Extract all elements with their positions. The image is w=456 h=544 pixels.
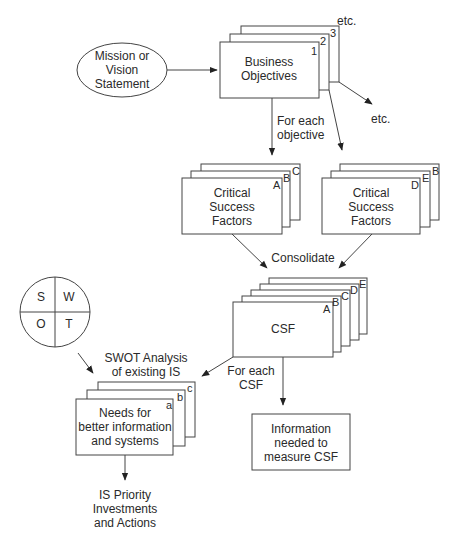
objectives-line-1: Business: [245, 55, 294, 69]
csf-right-stack: B E D Critical Success Factors: [322, 164, 439, 234]
stack-label-a: A: [323, 303, 331, 315]
arrow-csf-right-to-consolidated: [339, 234, 372, 268]
csf-consolidated-stack: E D C B A CSF: [233, 278, 367, 357]
stack-label-c: C: [341, 290, 349, 302]
for-each-objective-line-2: objective: [277, 128, 325, 142]
stack-label-e: E: [422, 172, 429, 184]
stack-label-c: C: [292, 165, 300, 177]
stack-label-a: a: [166, 399, 173, 411]
information-line-2: needed to: [274, 436, 328, 450]
arrow-objectives-to-csf-right: [329, 90, 342, 150]
information-node: Information needed to measure CSF: [252, 414, 350, 470]
swot-analysis-line-2: of existing IS: [112, 365, 181, 379]
objectives-line-2: Objectives: [241, 69, 297, 83]
csf-right-line-3: Factors: [351, 214, 391, 228]
mission-statement-node: Mission or Vision Statement: [77, 43, 167, 97]
for-each-objective-line-1: For each: [277, 114, 324, 128]
csf-consolidated-label: CSF: [271, 322, 295, 336]
stack-label-b: B: [332, 296, 339, 308]
stack-label-b: B: [283, 172, 290, 184]
arrow-etc: [339, 82, 372, 104]
for-each-csf-line-2: CSF: [239, 378, 263, 392]
swot-analysis-line-1: SWOT Analysis: [104, 351, 187, 365]
swot-circle: S W O T: [20, 277, 90, 347]
for-each-csf-line-1: For each: [227, 364, 274, 378]
business-objectives-stack: 3 2 1 Business Objectives etc.: [220, 14, 356, 98]
swot-o: O: [36, 317, 45, 331]
information-line-3: measure CSF: [264, 450, 338, 464]
priority-line-1: IS Priority: [99, 488, 151, 502]
needs-line-2: better information: [78, 420, 171, 434]
csf-left-stack: C B A Critical Success Factors: [182, 164, 300, 234]
csf-right-line-2: Success: [348, 200, 393, 214]
csf-left-line-2: Success: [209, 200, 254, 214]
stack-label-b: b: [177, 391, 183, 403]
swot-t: T: [65, 317, 73, 331]
stack-label-b: B: [432, 165, 439, 177]
needs-line-3: and systems: [91, 434, 158, 448]
arrow-swot-to-needs: [78, 353, 93, 373]
information-line-1: Information: [271, 422, 331, 436]
csf-left-line-3: Factors: [212, 214, 252, 228]
mission-line-1: Mission or: [95, 49, 150, 63]
priority-line-2: Investments: [93, 502, 158, 516]
swot-s: S: [37, 290, 45, 304]
stack-label-a: A: [273, 179, 281, 191]
stack-label-3: 3: [330, 27, 336, 39]
csf-right-line-1: Critical: [353, 186, 390, 200]
etc-side-label: etc.: [371, 112, 390, 126]
needs-line-1: Needs for: [99, 406, 151, 420]
swot-w: W: [63, 290, 75, 304]
stack-label-c: c: [187, 382, 193, 394]
arrow-csf-left-to-consolidated: [232, 234, 267, 268]
needs-stack: c b a Needs for better information and s…: [76, 382, 195, 455]
stack-label-d: D: [411, 179, 419, 191]
stack-label-e: E: [359, 278, 366, 290]
priority-line-3: and Actions: [94, 516, 156, 530]
consolidate-label: Consolidate: [271, 251, 335, 265]
stack-label-d: D: [350, 284, 358, 296]
csf-planning-diagram: Mission or Vision Statement 3 2 1 Busine…: [0, 0, 456, 544]
mission-line-3: Statement: [95, 77, 150, 91]
stack-label-1: 1: [311, 45, 317, 57]
stack-label-2: 2: [320, 35, 326, 47]
mission-line-2: Vision: [106, 63, 138, 77]
etc-top-label: etc.: [337, 14, 356, 28]
csf-left-line-1: Critical: [214, 186, 251, 200]
